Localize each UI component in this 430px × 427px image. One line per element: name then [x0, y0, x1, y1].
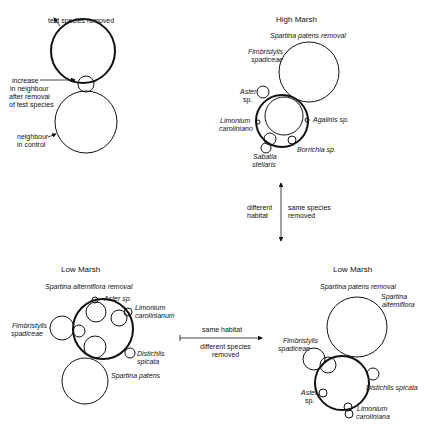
hm-limonium-1: Limonium — [220, 117, 250, 125]
horizontal-arrow-bottom-1: different species — [200, 343, 251, 351]
low-marsh-left-removal: Spartina alterniflora removal — [45, 283, 133, 291]
hm-aster-1: Aster — [240, 88, 256, 96]
lmr-distichlis: Distichlis spicata — [366, 384, 418, 392]
diagram-canvas: test species removed increase in neighbo… — [0, 0, 430, 427]
diagram-shapes — [0, 0, 430, 427]
vertical-arrow-right-1: same species — [288, 204, 331, 212]
hm-fimbristylis-1: Fimbristylis — [248, 48, 283, 56]
lml-fimbristylis-1: Fimbristylis — [12, 322, 47, 330]
hm-borrichia: Borrichia sp. — [297, 146, 336, 154]
lmr-limonium-2: caroliniana — [356, 413, 390, 421]
low-marsh-right-title: Low Marsh — [333, 266, 372, 274]
high-marsh-title: High Marsh — [276, 16, 317, 24]
legend-increase-label-1: increase — [12, 77, 38, 85]
lml-spartina-patens: Spartina patens — [111, 372, 160, 380]
legend-test-species-label: test species removed — [48, 17, 114, 25]
lmr-aster-2: sp. — [305, 397, 314, 405]
vertical-arrow-left-1: different — [247, 204, 272, 212]
lml-distichlis-2: spicata — [137, 358, 159, 366]
horizontal-arrow-bottom-2: removed — [212, 351, 239, 359]
hm-limonium-2: caroliniano — [219, 125, 253, 133]
legend-increase-label-4: of test species — [9, 101, 54, 109]
lmr-fimbristylis-2: spadiceae — [278, 345, 310, 353]
lmr-fimbristylis-1: Fimbristylis — [283, 337, 318, 345]
legend-neighbour-label-1: neighbour — [17, 133, 48, 141]
low-marsh-right-removal: Spartina patens removal — [320, 283, 396, 291]
legend-increase-label-2: in neighbour — [10, 85, 49, 93]
low-marsh-left-diagram — [50, 297, 135, 404]
lml-limonium-2: carolinianum — [135, 312, 175, 320]
hm-sabatia-1: Sabatia — [253, 153, 277, 161]
low-marsh-right-diagram — [303, 297, 387, 418]
high-marsh-removal: Spartina patens removal — [270, 32, 346, 40]
low-marsh-left-title: Low Marsh — [61, 266, 100, 274]
lml-aster: Aster sp. — [104, 295, 132, 303]
hm-aster-2: sp. — [243, 96, 252, 104]
lmr-spartina-1: Spartina — [381, 293, 407, 301]
legend-neighbour-label-2: in control — [17, 141, 45, 149]
hm-fimbristylis-2: spadiceae — [251, 56, 283, 64]
horizontal-arrow-top: same habitat — [202, 326, 242, 334]
legend-diagram — [40, 18, 117, 153]
hm-sabatia-2: stellaris — [252, 161, 276, 169]
lml-distichlis-1: Distichlis — [137, 350, 165, 358]
lmr-limonium-1: Limonium — [357, 405, 387, 413]
lmr-aster-1: Aster — [301, 389, 317, 397]
lmr-spartina-2: alterniflora — [382, 301, 415, 309]
lml-fimbristylis-2: spadiceae — [11, 330, 43, 338]
vertical-arrow-left-2: habitat — [247, 212, 268, 220]
lml-limonium-1: Limonium — [135, 304, 165, 312]
hm-agalinis: Agalinis sp. — [313, 116, 349, 124]
vertical-arrow-right-2: removed — [288, 212, 315, 220]
legend-increase-label-3: after removal — [9, 93, 50, 101]
